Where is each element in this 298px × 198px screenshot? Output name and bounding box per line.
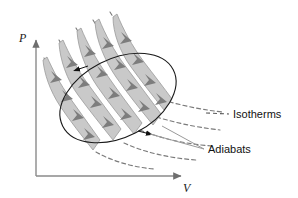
adiabats-label: Adiabats (208, 143, 251, 155)
flow-ribbons-group (43, 14, 172, 150)
isotherms-label: Isotherms (233, 108, 282, 120)
isotherms-leader-line (206, 113, 229, 114)
isotherm-curve (96, 152, 154, 169)
isotherm-curve (150, 115, 220, 130)
isotherm-curve (124, 143, 196, 160)
pv-diagram-figure: P V (0, 0, 298, 198)
diagram-canvas: P V (0, 0, 298, 198)
isotherm-curve (140, 130, 212, 146)
annotations-group: Isotherms Adiabats (150, 108, 282, 155)
adiabats-leader-line (150, 134, 204, 149)
y-axis-label: P (18, 31, 27, 45)
x-axis-label: V (183, 181, 192, 195)
adiabats-leader-line-secondary (162, 126, 204, 149)
